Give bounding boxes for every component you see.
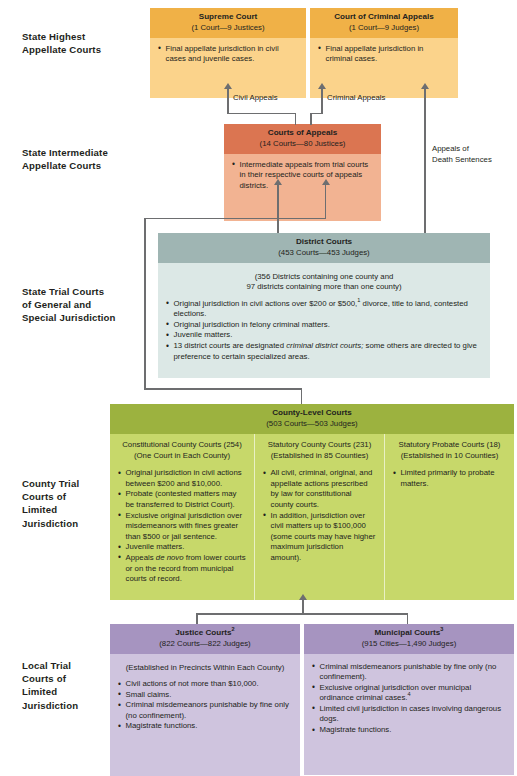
district-courts-body: (356 Districts containing one county and… <box>158 263 490 378</box>
connector-line-criminal-appeals-vertical <box>321 89 323 114</box>
justice-courts-note: (Established in Precincts Within Each Co… <box>118 663 292 674</box>
connector-label-line: Death Sentences <box>432 155 492 166</box>
column-subtitle: (Established in 85 Counties) <box>263 451 376 462</box>
municipal-courts-box: Municipal Courts3 (915 Cities—1,490 Judg… <box>304 624 514 775</box>
municipal-courts-bullets: Criminal misdemeanors punishable by fine… <box>312 662 506 736</box>
connector-line-civil-appeals-vertical <box>227 89 229 114</box>
list-item: Exclusive original jurisdiction over mis… <box>118 511 246 543</box>
column-title: Constitutional County Courts (254) <box>118 440 246 451</box>
tier-label-line: Special Jurisdiction <box>22 311 116 324</box>
list-item: Small claims. <box>118 690 292 701</box>
county-level-courts-header: County-Level Courts (503 Courts—503 Judg… <box>110 404 514 434</box>
district-courts-note-line: 97 districts containing more than one co… <box>166 282 482 293</box>
statutory-probate-courts-bullets: Limited primarily to probate matters. <box>393 468 506 489</box>
tier-label-state-intermediate-appellate-courts: State Intermediate Appellate Courts <box>22 146 108 172</box>
connector-line-district-to-appeals <box>277 185 279 233</box>
supreme-court-subtitle: (1 Court—9 Justices) <box>152 23 304 34</box>
constitutional-county-courts-heading: Constitutional County Courts (254) (One … <box>118 440 246 461</box>
district-courts-box: District Courts (453 Courts—453 Judges) … <box>158 233 490 378</box>
connector-line-municipal-courts-drop <box>407 613 409 624</box>
list-item: Civil actions of not more than $10,000. <box>118 679 292 690</box>
list-item: Exclusive original jurisdiction over mun… <box>312 683 506 704</box>
connector-line-civil-appeals-horizontal <box>227 113 296 115</box>
district-courts-header: District Courts (453 Courts—453 Judges) <box>158 233 490 263</box>
tier-label-line: State Highest <box>22 30 101 43</box>
list-item: Original jurisdiction in civil actions b… <box>118 468 246 489</box>
statutory-county-courts-bullets: All civil, criminal, original, and appel… <box>263 468 376 563</box>
tier-label-county-trial-courts: County Trial Courts of Limited Jurisdict… <box>22 477 79 530</box>
arrow-up-icon-district-to-appeals <box>274 179 282 185</box>
supreme-court-bullets: Final appellate jurisdiction in civil ca… <box>158 44 298 65</box>
county-level-courts-title: County-Level Courts <box>272 408 352 417</box>
list-item: Final appellate jurisdiction in civil ca… <box>158 44 298 65</box>
list-item: Juvenile matters. <box>118 542 246 553</box>
court-of-criminal-appeals-body: Final appellate jurisdiction in criminal… <box>310 38 458 98</box>
tier-label-line: Limited <box>22 685 78 698</box>
footnote-marker: 2 <box>232 626 235 632</box>
connector-line-criminal-appeals-drop <box>310 113 312 125</box>
list-item: Limited primarily to probate matters. <box>393 468 506 489</box>
courts-of-appeals-subtitle: (14 Courts—80 Justices) <box>226 139 379 150</box>
courts-of-appeals-bullets: Intermediate appeals from trial courts i… <box>232 160 373 192</box>
courts-of-appeals-header: Courts of Appeals (14 Courts—80 Justices… <box>224 124 381 154</box>
courts-of-appeals-box: Courts of Appeals (14 Courts—80 Justices… <box>224 124 381 221</box>
column-title: Statutory Probate Courts (18) <box>393 440 506 451</box>
tier-label-line: Jurisdiction <box>22 517 79 530</box>
tier-label-line: State Trial Courts <box>22 285 116 298</box>
list-item: Magistrate functions. <box>312 725 506 736</box>
municipal-courts-title: Municipal Courts <box>375 628 441 637</box>
justice-courts-subtitle: (822 Courts—822 Judges) <box>112 639 298 650</box>
connector-label-criminal-appeals: Criminal Appeals <box>327 93 386 104</box>
tier-label-line: Limited <box>22 503 79 516</box>
connector-line-local-to-county-horizontal <box>196 613 408 615</box>
court-of-criminal-appeals-header: Court of Criminal Appeals (1 Court—9 Jud… <box>310 8 458 38</box>
district-courts-subtitle: (453 Courts—453 Judges) <box>160 248 488 259</box>
tier-label-state-trial-courts: State Trial Courts of General and Specia… <box>22 285 116 325</box>
tier-label-state-highest-appellate-courts: State Highest Appellate Courts <box>22 30 101 56</box>
justice-courts-body: (Established in Precincts Within Each Co… <box>110 654 300 776</box>
list-item: Appeals de novo from lower courts or on … <box>118 553 246 585</box>
list-item: Intermediate appeals from trial courts i… <box>232 160 373 192</box>
tier-label-line: Appellate Courts <box>22 43 101 56</box>
connector-label-death-sentences: Appeals of Death Sentences <box>432 144 492 165</box>
court-of-criminal-appeals-subtitle: (1 Court—9 Judges) <box>312 23 456 34</box>
list-item: 13 district courts are designated crimin… <box>166 341 482 362</box>
justice-courts-bullets: Civil actions of not more than $10,000. … <box>118 679 292 732</box>
county-level-courts-subtitle: (503 Courts—503 Judges) <box>112 419 512 430</box>
column-subtitle: (One Court in Each County) <box>118 451 246 462</box>
connector-line-county-to-appeals-vertical <box>144 218 146 390</box>
connector-line-justice-courts-drop <box>196 613 198 624</box>
arrow-up-icon-county-to-appeals <box>322 179 330 185</box>
arrow-up-icon-death-sentences <box>421 83 429 89</box>
statutory-county-courts-heading: Statutory County Courts (231) (Establish… <box>263 440 376 461</box>
district-courts-title: District Courts <box>296 237 352 246</box>
list-item: Final appellate jurisdiction in criminal… <box>318 44 450 65</box>
connector-line-criminal-appeals-horizontal <box>310 113 323 115</box>
footnote-marker: 4 <box>407 692 410 698</box>
connector-line-death-sentences <box>424 89 426 233</box>
connector-line-county-to-appeals-drop <box>301 388 303 404</box>
list-item: All civil, criminal, original, and appel… <box>263 468 376 510</box>
connector-line-county-to-appeals-up <box>325 185 327 218</box>
list-item: Magistrate functions. <box>118 721 292 732</box>
list-item: Criminal misdemeanors punishable by fine… <box>312 662 506 683</box>
district-courts-note: (356 Districts containing one county and… <box>166 272 482 293</box>
tier-label-local-trial-courts: Local Trial Courts of Limited Jurisdicti… <box>22 659 78 712</box>
supreme-court-title: Supreme Court <box>199 12 257 21</box>
statutory-county-courts-column: Statutory County Courts (231) (Establish… <box>254 434 384 600</box>
statutory-probate-courts-heading: Statutory Probate Courts (18) (Establish… <box>393 440 506 461</box>
tier-label-line: Courts of <box>22 672 78 685</box>
list-item: Limited civil jurisdiction in cases invo… <box>312 704 506 725</box>
arrow-up-icon-civil-appeals <box>224 83 232 89</box>
connector-line-county-to-appeals-top <box>144 218 326 220</box>
list-item: Original jurisdiction in felony criminal… <box>166 320 482 331</box>
justice-courts-box: Justice Courts2 (822 Courts—822 Judges) … <box>110 624 300 776</box>
courts-of-appeals-body: Intermediate appeals from trial courts i… <box>224 154 381 221</box>
statutory-probate-courts-column: Statutory Probate Courts (18) (Establish… <box>384 434 514 600</box>
courts-of-appeals-title: Courts of Appeals <box>268 128 337 137</box>
footnote-marker: 3 <box>440 626 443 632</box>
list-item: Original jurisdiction in civil actions o… <box>166 299 482 320</box>
county-level-courts-columns: Constitutional County Courts (254) (One … <box>110 434 514 600</box>
court-of-criminal-appeals-box: Court of Criminal Appeals (1 Court—9 Jud… <box>310 8 458 98</box>
municipal-courts-header: Municipal Courts3 (915 Cities—1,490 Judg… <box>304 624 514 654</box>
